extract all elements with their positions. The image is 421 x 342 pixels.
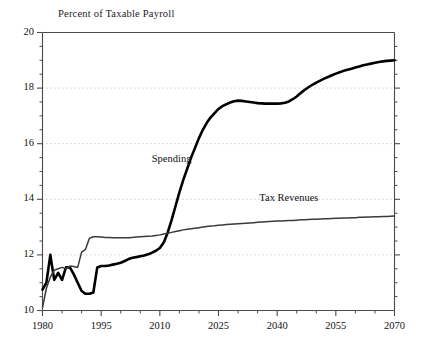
series-label-spending: Spending [152,153,192,164]
x-tick-label: 2025 [199,320,239,331]
x-tick-label: 1980 [23,320,63,331]
chart-container: Percent of Taxable Payroll 101214161820 … [0,0,421,342]
x-tick-label: 1995 [81,320,121,331]
axis-lines [43,33,395,311]
axis-ticks [37,33,400,317]
grid-lines [43,88,395,255]
y-tick-label: 20 [8,26,34,37]
x-tick-label: 2055 [316,320,356,331]
data-series [43,60,395,307]
x-tick-label: 2010 [140,320,180,331]
series-label-tax-revenues: Tax Revenues [259,192,318,203]
x-tick-label: 2070 [375,320,415,331]
x-tick-label: 2040 [257,320,297,331]
y-tick-label: 16 [8,137,34,148]
chart-plot-area [0,0,421,342]
y-tick-label: 12 [8,248,34,259]
y-tick-label: 10 [8,304,34,315]
y-tick-label: 18 [8,81,34,92]
y-tick-label: 14 [8,192,34,203]
